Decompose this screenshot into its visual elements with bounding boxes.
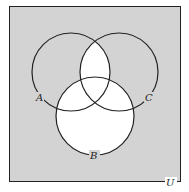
label-u: U (166, 177, 175, 188)
label-a: A (35, 92, 43, 103)
label-b: B (89, 150, 97, 161)
label-c: C (145, 92, 153, 103)
venn-diagram: A C B U (0, 0, 189, 192)
